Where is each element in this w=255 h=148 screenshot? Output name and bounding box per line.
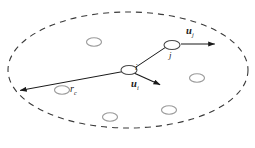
neighbor-node	[103, 113, 118, 121]
neighbor-node	[162, 106, 177, 114]
link-i-j	[136, 47, 166, 67]
neighbor-node	[190, 74, 205, 82]
node-i	[121, 66, 137, 75]
diagram-canvas	[0, 0, 255, 148]
neighbor-node	[87, 38, 102, 46]
communication-range-figure: uj ui rc i j	[0, 0, 255, 148]
velocity-vector-i-arrow	[134, 73, 160, 85]
neighbor-node	[55, 86, 70, 94]
node-j	[164, 41, 180, 50]
radius-vector-arrow	[20, 71, 126, 90]
